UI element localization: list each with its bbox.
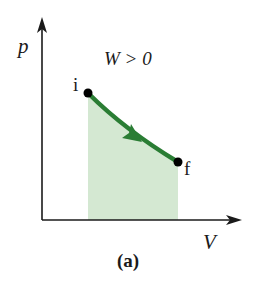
initial-point-label: i bbox=[73, 74, 78, 96]
y-axis-label: p bbox=[18, 34, 29, 59]
final-point-label: f bbox=[184, 158, 190, 180]
x-axis-label: V bbox=[203, 230, 216, 255]
initial-point-marker bbox=[84, 89, 93, 98]
work-annotation: W > 0 bbox=[104, 48, 152, 70]
work-shaded-area bbox=[88, 93, 178, 220]
pv-diagram-graphic bbox=[0, 0, 261, 287]
pv-diagram: p V W > 0 i f (a) bbox=[0, 0, 261, 287]
final-point-marker bbox=[174, 158, 183, 167]
figure-caption: (a) bbox=[117, 250, 139, 272]
